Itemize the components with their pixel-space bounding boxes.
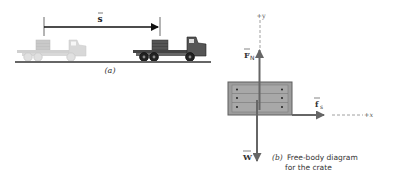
- friction-force-label: f: [315, 99, 319, 109]
- caption-b-line1: Free-body diagram: [287, 153, 358, 162]
- normal-force-subscript: N: [250, 54, 255, 61]
- truck-final-solid: [133, 37, 206, 61]
- truck-initial-faded: [17, 40, 86, 61]
- caption-a: (a): [104, 66, 115, 75]
- panel-b-free-body-diagram: +y F N W f s +x (b): [228, 12, 373, 172]
- caption-b-prefix: (b): [272, 153, 283, 162]
- displacement-label: s: [97, 14, 102, 24]
- ground-line: [15, 61, 211, 63]
- y-axis-label: +y: [256, 12, 265, 20]
- friction-force-subscript: s: [320, 103, 323, 110]
- x-axis-label: +x: [364, 111, 373, 119]
- caption-b-line2: for the crate: [285, 163, 332, 172]
- panel-a-truck-displacement: s: [15, 13, 211, 75]
- weight-label: W: [242, 152, 253, 162]
